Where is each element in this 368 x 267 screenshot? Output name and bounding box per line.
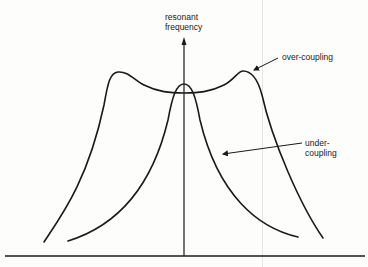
y-axis-arrowhead-icon — [182, 37, 187, 45]
under-coupling-label-line2: coupling — [305, 148, 337, 158]
under-coupling-curve — [68, 84, 298, 241]
under-coupling-label-line1: under- — [305, 138, 337, 148]
coupling-diagram: resonant frequency over-coupling under- … — [0, 0, 368, 267]
under-coupling-pointer-arrow — [223, 143, 302, 154]
diagram-canvas — [0, 0, 368, 267]
under-coupling-label: under- coupling — [305, 138, 337, 158]
over-coupling-pointer-arrow — [254, 58, 278, 70]
y-axis-label-line1: resonant — [165, 12, 202, 22]
y-axis-label-line2: frequency — [165, 22, 202, 32]
over-coupling-label: over-coupling — [282, 52, 333, 62]
y-axis-label: resonant frequency — [165, 12, 202, 32]
